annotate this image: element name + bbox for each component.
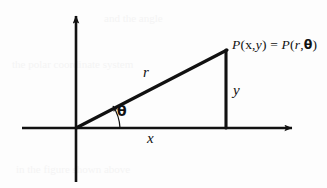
label-theta: θ	[117, 104, 127, 118]
point-theta-var: θ	[304, 37, 313, 52]
hypotenuse-line-r	[76, 50, 227, 128]
label-r: r	[143, 65, 149, 80]
label-y: y	[233, 83, 240, 98]
label-point-equation: P(x,y) = P(r,θ)	[232, 38, 317, 52]
point-close-paren-2: )	[313, 37, 318, 52]
label-x: x	[147, 131, 154, 146]
point-p2: P	[282, 37, 290, 52]
polar-coordinate-figure: the polar coordinate system in the figur…	[0, 0, 327, 188]
point-equals-sign: =	[267, 37, 282, 52]
diagram-canvas	[0, 0, 327, 188]
